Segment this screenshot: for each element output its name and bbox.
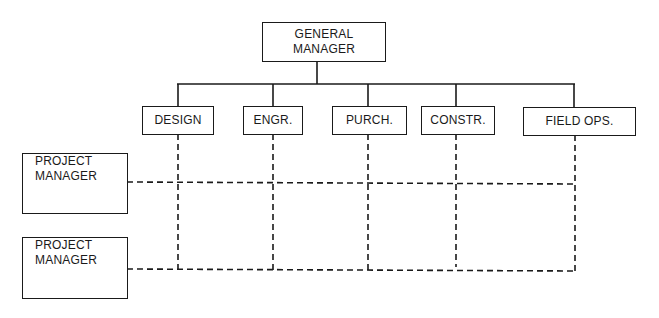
- department-label: PURCH.: [346, 113, 393, 128]
- project-manager-label-line1: PROJECT: [35, 238, 92, 253]
- project-manager-box-1: PROJECT MANAGER: [22, 153, 128, 214]
- project-manager-label-line2: MANAGER: [35, 253, 97, 268]
- general-manager-box: GENERAL MANAGER: [262, 22, 386, 62]
- general-manager-label-line1: GENERAL: [295, 27, 354, 42]
- department-label: DESIGN: [154, 113, 201, 128]
- general-manager-label-line2: MANAGER: [293, 42, 355, 57]
- project1-dashed-line: [127, 182, 575, 184]
- department-box-design: DESIGN: [142, 106, 214, 135]
- department-box-engr: ENGR.: [243, 106, 303, 135]
- department-label: CONSTR.: [430, 113, 485, 128]
- department-box-purch: PURCH.: [332, 106, 407, 135]
- project-manager-box-2: PROJECT MANAGER: [22, 237, 128, 299]
- department-box-constr: CONSTR.: [421, 106, 495, 135]
- project-manager-label-line1: PROJECT: [35, 154, 92, 169]
- project2-dashed-line: [127, 269, 575, 271]
- department-label: FIELD OPS.: [545, 114, 613, 129]
- project-manager-label-line2: MANAGER: [35, 169, 97, 184]
- department-box-field-ops: FIELD OPS.: [523, 107, 636, 136]
- department-label: ENGR.: [253, 113, 292, 128]
